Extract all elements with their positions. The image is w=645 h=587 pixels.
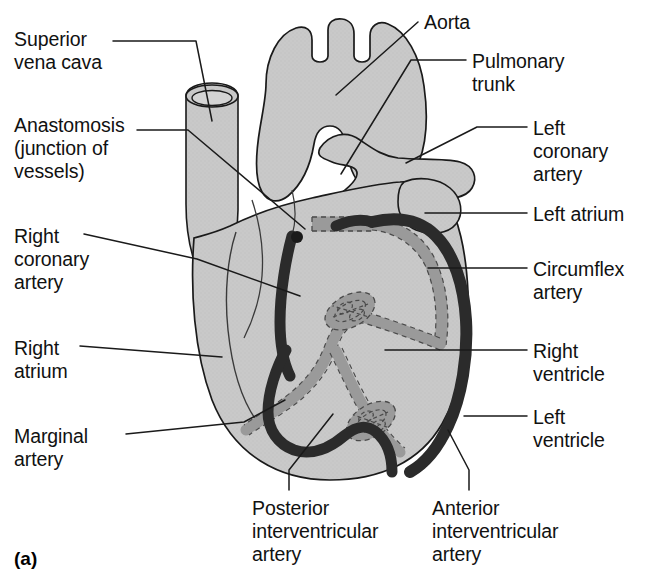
label-left-coronary-artery: Left coronary artery bbox=[533, 117, 608, 186]
label-pulmonary-trunk: Pulmonary trunk bbox=[472, 50, 564, 96]
leader-anterior-interventricular bbox=[448, 430, 469, 490]
left-coronary-origin-dark bbox=[336, 220, 372, 226]
label-right-coronary-artery: Right coronary artery bbox=[14, 225, 89, 294]
label-aorta: Aorta bbox=[424, 11, 470, 34]
right-coronary-origin-dot bbox=[291, 231, 303, 243]
label-right-ventricle: Right ventricle bbox=[533, 340, 605, 386]
label-anterior-interventricular-artery: Anterior interventricular artery bbox=[432, 497, 558, 566]
label-right-atrium: Right atrium bbox=[14, 337, 68, 383]
label-marginal-artery: Marginal artery bbox=[14, 425, 88, 471]
coronary-circulation-figure: Superior vena cavaAnastomosis (junction … bbox=[0, 0, 645, 587]
label-left-atrium: Left atrium bbox=[533, 203, 624, 226]
label-left-ventricle: Left ventricle bbox=[533, 406, 605, 452]
panel-letter: (a) bbox=[14, 548, 37, 570]
label-superior-vena-cava: Superior vena cava bbox=[14, 28, 102, 74]
label-posterior-interventricular-artery: Posterior interventricular artery bbox=[252, 497, 378, 566]
label-circumflex-artery: Circumflex artery bbox=[533, 258, 624, 304]
label-anastomosis: Anastomosis (junction of vessels) bbox=[14, 114, 125, 183]
heart-silhouette bbox=[186, 19, 475, 480]
